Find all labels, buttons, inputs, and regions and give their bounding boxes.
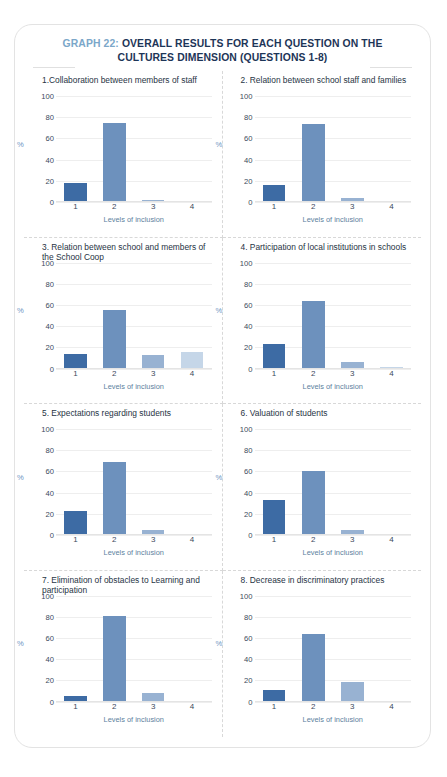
bar-level-2 [302,301,325,369]
x-axis-label: Levels of inclusion [255,548,412,557]
y-tick-label: 40 [244,655,252,664]
bar-slot [173,596,212,702]
title-rule-left [33,67,75,68]
chart-title-5: 5. Expectations regarding students [28,408,216,429]
bar-slot [255,96,294,202]
y-tick-label: 0 [248,697,252,706]
y-tick-label: 20 [244,676,252,685]
chart-title-2: 2. Relation between school staff and fam… [227,75,416,96]
bar-slot [95,429,134,535]
y-axis-label: % [17,472,24,481]
bar-level-2 [103,123,126,203]
bar-slot [372,596,411,702]
x-tick-label: 1 [255,202,294,214]
y-tick-label: 0 [248,364,252,373]
bar-slot [134,96,173,202]
y-tick-label: 40 [244,155,252,164]
x-tick-label: 3 [333,702,372,714]
chart-title-3: 3. Relation between school and members o… [28,242,216,263]
plot-area-2: 100806040200%1234Levels of inclusion [241,96,412,220]
plot-area-4: 100806040200%1234Levels of inclusion [241,263,412,387]
y-tick-label: 40 [244,322,252,331]
y-tick-label: 100 [240,591,253,600]
bar-slot [333,96,372,202]
x-tick-label: 2 [294,202,333,214]
y-tick-label: 60 [244,300,252,309]
chart-panel-7: 7. Elimination of obstacles to Learning … [24,571,223,738]
x-axis-ticks: 1234 [255,202,412,214]
x-tick-label: 3 [333,202,372,214]
y-axis-label: % [216,639,223,648]
bar-slot [134,429,173,535]
chart-panel-2: 2. Relation between school staff and fam… [223,71,422,238]
bar-slot [372,96,411,202]
bar-series-6 [255,429,412,535]
charts-grid: 1.Collaboration between members of staff… [24,71,421,737]
bar-level-1 [64,511,87,535]
x-tick-label: 2 [294,369,333,381]
x-tick-label: 2 [95,202,134,214]
plot-area-7: 100806040200%1234Levels of inclusion [42,596,212,720]
x-tick-label: 1 [56,535,95,547]
y-tick-label: 80 [244,113,252,122]
bar-slot [173,429,212,535]
y-tick-label: 60 [46,300,54,309]
x-tick-label: 4 [372,369,411,381]
bar-slot [255,263,294,369]
bar-slot [56,96,95,202]
bar-slot [56,596,95,702]
x-tick-label: 1 [255,702,294,714]
bar-level-4 [181,352,204,369]
x-axis-label: Levels of inclusion [56,715,212,724]
y-tick-label: 100 [41,425,54,434]
bar-level-1 [263,344,286,368]
x-axis-ticks: 1234 [56,535,212,547]
x-tick-label: 2 [294,702,333,714]
bar-slot [134,263,173,369]
chart-title-6: 6. Valuation of students [227,408,416,429]
y-tick-label: 20 [46,343,54,352]
bar-slot [56,429,95,535]
y-axis-label: % [216,306,223,315]
bar-slot [95,596,134,702]
bar-level-1 [263,500,286,535]
x-axis-ticks: 1234 [56,702,212,714]
bar-slot [294,96,333,202]
chart-title-7: 7. Elimination of obstacles to Learning … [28,575,216,596]
x-tick-label: 1 [255,535,294,547]
bar-slot [95,96,134,202]
x-tick-label: 3 [134,702,173,714]
bar-series-2 [255,96,412,202]
bar-slot [134,596,173,702]
bar-level-2 [302,124,325,202]
title-rule-right [370,67,412,68]
bar-slot [372,429,411,535]
x-axis-label: Levels of inclusion [255,382,412,391]
bar-slot [294,596,333,702]
y-tick-label: 100 [240,92,253,101]
x-axis-ticks: 1234 [255,702,412,714]
x-tick-label: 3 [134,369,173,381]
x-axis-ticks: 1234 [56,202,212,214]
bar-series-4 [255,263,412,369]
y-tick-label: 20 [244,176,252,185]
x-tick-label: 4 [372,535,411,547]
chart-title-4: 4. Participation of local institutions i… [227,242,416,263]
figure-title-line2: CULTURES DIMENSION (QUESTIONS 1-8) [118,52,328,63]
bar-level-2 [103,616,126,702]
y-tick-label: 20 [46,676,54,685]
y-tick-label: 0 [50,364,54,373]
bar-series-3 [56,263,212,369]
plot-area-6: 100806040200%1234Levels of inclusion [241,429,412,553]
chart-panel-4: 4. Participation of local institutions i… [223,238,422,405]
bar-slot [255,429,294,535]
x-axis-ticks: 1234 [255,369,412,381]
y-tick-label: 80 [46,279,54,288]
bar-series-7 [56,596,212,702]
plot-area-1: 100806040200%1234Levels of inclusion [42,96,212,220]
x-tick-label: 2 [95,369,134,381]
x-axis-ticks: 1234 [56,369,212,381]
chart-title-1: 1.Collaboration between members of staff [28,75,216,96]
bar-slot [173,263,212,369]
x-tick-label: 3 [134,202,173,214]
